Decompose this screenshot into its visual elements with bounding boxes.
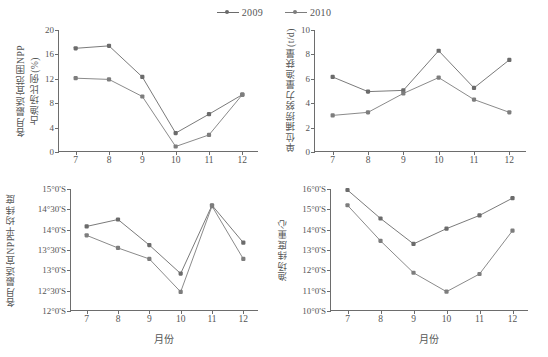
data-point-marker (207, 133, 211, 137)
x-axis-tick-label: 11 (204, 155, 213, 165)
y-axis-tick-label: 14°0'S (42, 225, 66, 235)
y-axis-tick-label: 15°0'S (42, 184, 66, 194)
y-axis-tick-label: 10 (301, 25, 310, 35)
x-axis-tick-label: 7 (73, 155, 78, 165)
data-point-marker (107, 44, 111, 48)
y-axis-tick (327, 311, 331, 312)
chart-panel-top-left: 048121620789101112各月最适宜范围NPP占渔场比例(%) (0, 20, 274, 182)
y-axis-tick-label: 13°0'S (42, 265, 66, 275)
series-line-2009 (76, 46, 243, 133)
y-axis-tick-label: 0 (50, 147, 55, 157)
legend-marker-2009 (217, 8, 239, 17)
x-axis-tick-label: 10 (171, 155, 181, 165)
data-point-marker (240, 93, 244, 97)
data-point-marker (411, 242, 415, 246)
data-point-marker (411, 271, 415, 275)
data-point-marker (179, 271, 183, 275)
chart-panel-bottom-right: 10°0'S11°0'S12°0'S13°0'S14°0'S15°0'S16°0… (274, 177, 548, 357)
x-axis-tick-label: 10 (176, 314, 186, 324)
y-axis-title: 各月最适宜NPP平均纬度 (4, 189, 18, 311)
y-axis-title-line: 占渔场比例(%) (28, 57, 42, 125)
chart-panel-top-right: 0246810789101112单位捕捞努力量渔获量(t/d) (274, 20, 548, 182)
data-point-marker (85, 224, 89, 228)
legend-entry-2009: 2009 (217, 7, 263, 18)
data-point-marker (241, 241, 245, 245)
x-axis-tick-label: 8 (107, 155, 112, 165)
data-point-marker (147, 243, 151, 247)
data-point-marker (507, 110, 511, 114)
x-axis-tick-label: 8 (378, 314, 383, 324)
data-point-marker (241, 257, 245, 261)
data-point-marker (366, 90, 370, 94)
legend-entry-2010: 2010 (285, 7, 331, 18)
data-point-marker (472, 86, 476, 90)
data-point-marker (207, 112, 211, 116)
x-axis-tick-label: 8 (116, 314, 121, 324)
data-point-marker (107, 77, 111, 81)
y-axis-title-line: 各月最适宜范围NPP (14, 45, 28, 137)
data-series-layer (71, 189, 259, 311)
data-series-layer (315, 30, 527, 152)
legend-label-2009: 2009 (242, 7, 263, 18)
x-axis-tick-label: 7 (84, 314, 89, 324)
data-point-marker (140, 94, 144, 98)
data-point-marker (116, 246, 120, 250)
data-point-marker (477, 272, 481, 276)
data-point-marker (437, 49, 441, 53)
y-axis-tick-label: 6 (306, 74, 311, 84)
x-axis-tick-label: 12 (238, 155, 248, 165)
y-axis-tick-label: 8 (306, 49, 311, 59)
x-axis-tick-label: 10 (442, 314, 452, 324)
y-axis-tick-label: 12°30'S (38, 286, 66, 296)
x-axis-tick-label: 7 (330, 155, 335, 165)
data-series-layer (59, 30, 259, 152)
plot-area: 048121620789101112 (58, 30, 258, 152)
y-axis-tick-label: 11°0'S (303, 286, 326, 296)
y-axis-tick-label: 16 (45, 49, 54, 59)
y-axis-tick-label: 0 (306, 147, 311, 157)
data-point-marker (477, 213, 481, 217)
data-point-marker (179, 290, 183, 294)
plot-area: 0246810789101112 (314, 30, 526, 152)
data-point-marker (74, 46, 78, 50)
data-point-marker (147, 257, 151, 261)
y-axis-title: 各月最适宜范围NPP占渔场比例(%) (14, 30, 42, 152)
data-point-marker (174, 131, 178, 135)
data-point-marker (174, 144, 178, 148)
chart-panel-bottom-left: 12°0'S12°30'S13°0'S13°30'S14°0'S14°30'S1… (0, 177, 274, 357)
y-axis-tick-label: 10°0'S (302, 306, 326, 316)
y-axis-tick-label: 14°30'S (38, 204, 66, 214)
y-axis-tick-label: 20 (45, 25, 54, 35)
data-point-marker (85, 233, 89, 237)
data-point-marker (510, 196, 514, 200)
x-axis-tick-label: 11 (475, 314, 484, 324)
data-point-marker (507, 58, 511, 62)
series-line-2010 (76, 78, 243, 146)
x-axis-tick-label: 12 (239, 314, 249, 324)
series-line-2010 (348, 205, 513, 291)
x-axis-tick-label: 8 (366, 155, 371, 165)
x-axis-title: 月份 (330, 331, 528, 346)
data-point-marker (116, 217, 120, 221)
data-point-marker (378, 239, 382, 243)
series-line-2009 (87, 205, 244, 273)
data-point-marker (140, 75, 144, 79)
data-point-marker (378, 216, 382, 220)
series-line-2010 (87, 206, 244, 292)
x-axis-tick-label: 11 (207, 314, 216, 324)
data-point-marker (366, 110, 370, 114)
data-point-marker (74, 76, 78, 80)
y-axis-tick-label: 4 (50, 123, 55, 133)
y-axis-tick-label: 13°0'S (302, 245, 326, 255)
plot-area: 12°0'S12°30'S13°0'S13°30'S14°0'S14°30'S1… (70, 189, 258, 311)
data-series-layer (331, 189, 529, 311)
plot-area: 10°0'S11°0'S12°0'S13°0'S14°0'S15°0'S16°0… (330, 189, 528, 311)
data-point-marker (210, 204, 214, 208)
y-axis-tick-label: 16°0'S (302, 184, 326, 194)
y-axis-tick (67, 311, 71, 312)
legend: 2009 2010 (0, 2, 548, 22)
data-point-marker (331, 113, 335, 117)
y-axis-tick-label: 14°0'S (302, 225, 326, 235)
legend-label-2010: 2010 (310, 7, 331, 18)
y-axis-tick (55, 152, 59, 153)
